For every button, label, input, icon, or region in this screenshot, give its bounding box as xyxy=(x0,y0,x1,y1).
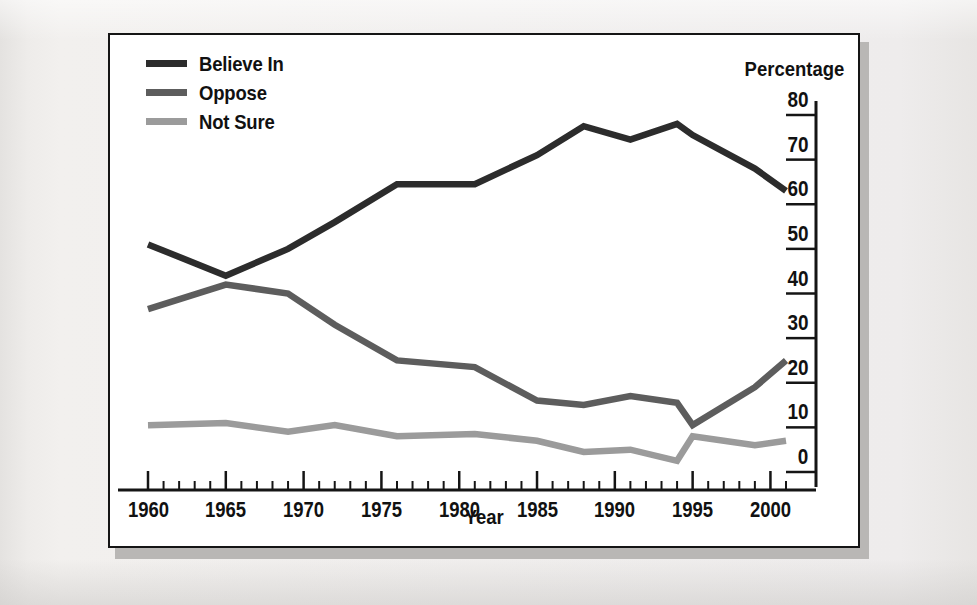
y-axis-label-20: 20 xyxy=(762,355,808,381)
data-line-not-sure xyxy=(148,423,786,461)
x-axis-label-text: 1970 xyxy=(283,497,324,523)
x-axis-label-1965: 1965 xyxy=(186,497,266,523)
legend-label-believe-in: Believe In xyxy=(199,52,284,76)
data-line-oppose xyxy=(148,285,786,426)
y-axis-label-text: 40 xyxy=(787,266,808,292)
y-axis-title-text: Percentage xyxy=(744,57,844,80)
x-axis-label-2000: 2000 xyxy=(730,497,810,523)
x-axis-label-text: 1995 xyxy=(672,497,713,523)
x-axis-label-1975: 1975 xyxy=(341,497,421,523)
legend-label-not-sure: Not Sure xyxy=(199,110,275,134)
x-axis-label-1990: 1990 xyxy=(575,497,655,523)
x-axis-label-1995: 1995 xyxy=(653,497,733,523)
y-axis-label-text: 10 xyxy=(787,399,808,425)
y-axis-label-60: 60 xyxy=(762,176,808,202)
x-axis-label-1970: 1970 xyxy=(264,497,344,523)
y-axis-label-text: 50 xyxy=(787,221,808,247)
legend-item-believe-in: Believe In xyxy=(146,49,295,78)
data-line-believe-in xyxy=(148,124,786,276)
legend-swatch-oppose xyxy=(146,89,187,96)
x-axis-label-text: 1980 xyxy=(439,497,480,523)
x-axis-label-text: 1965 xyxy=(205,497,246,523)
y-axis-label-50: 50 xyxy=(762,221,808,247)
y-axis-label-text: 70 xyxy=(787,132,808,158)
x-axis-label-text: 1985 xyxy=(516,497,557,523)
y-axis-label-40: 40 xyxy=(762,266,808,292)
legend-swatch-believe-in xyxy=(146,60,187,67)
x-axis-label-text: 1960 xyxy=(127,497,168,523)
legend-label-oppose: Oppose xyxy=(199,81,267,105)
y-axis-label-80: 80 xyxy=(762,87,808,113)
y-axis-label-10: 10 xyxy=(762,399,808,425)
x-axis-label-text: 1990 xyxy=(594,497,635,523)
x-axis-label-1980: 1980 xyxy=(419,497,499,523)
x-axis-label-text: 1975 xyxy=(361,497,402,523)
y-axis-label-text: 20 xyxy=(787,355,808,381)
legend-item-oppose: Oppose xyxy=(146,78,295,107)
y-axis-label-text: 0 xyxy=(797,444,808,470)
y-axis-label-30: 30 xyxy=(762,310,808,336)
legend-item-not-sure: Not Sure xyxy=(146,107,295,136)
y-axis-label-0: 0 xyxy=(762,444,808,470)
y-axis-label-text: 30 xyxy=(787,310,808,336)
x-axis-label-text: 2000 xyxy=(750,497,791,523)
y-axis-label-text: 80 xyxy=(787,87,808,113)
chart-legend: Believe In Oppose Not Sure xyxy=(146,49,295,136)
y-axis-title: Percentage xyxy=(744,57,844,81)
x-axis-label-1985: 1985 xyxy=(497,497,577,523)
x-axis-label-1960: 1960 xyxy=(108,497,188,523)
chart-figure-panel: Believe In Oppose Not Sure Percentage Ye… xyxy=(108,33,860,548)
y-axis-label-70: 70 xyxy=(762,132,808,158)
y-axis-label-text: 60 xyxy=(787,176,808,202)
legend-swatch-not-sure xyxy=(146,118,187,125)
